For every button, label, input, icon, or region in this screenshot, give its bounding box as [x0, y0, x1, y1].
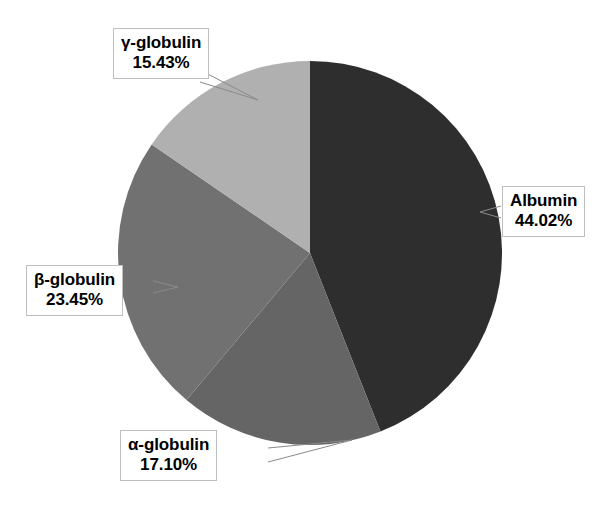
- pie-label-beta-globulin: β-globulin 23.45%: [26, 265, 123, 316]
- pie-label-beta-globulin-name: β-globulin: [34, 270, 115, 290]
- pie-slices-group: [118, 61, 502, 445]
- pie-label-gamma-globulin: γ-globulin 15.43%: [113, 28, 209, 79]
- pie-label-alpha-globulin-name: α-globulin: [128, 435, 209, 455]
- pie-label-gamma-globulin-name: γ-globulin: [121, 33, 201, 53]
- pie-label-beta-globulin-value: 23.45%: [34, 290, 115, 310]
- pie-label-albumin-value: 44.02%: [510, 211, 577, 231]
- pie-chart: γ-globulin 15.43% Albumin 44.02% β-globu…: [0, 0, 605, 508]
- pie-label-alpha-globulin-value: 17.10%: [128, 455, 209, 475]
- pie-chart-canvas: [0, 0, 605, 508]
- pie-label-gamma-globulin-value: 15.43%: [121, 53, 201, 73]
- pie-label-alpha-globulin: α-globulin 17.10%: [120, 430, 217, 481]
- pie-label-albumin-name: Albumin: [510, 191, 577, 211]
- pie-label-albumin: Albumin 44.02%: [502, 186, 585, 237]
